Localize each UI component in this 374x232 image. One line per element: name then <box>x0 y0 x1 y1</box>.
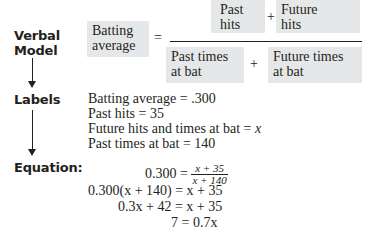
term-text: Past <box>216 2 260 17</box>
label-name: Future hits and times at bat <box>88 121 240 136</box>
term-text: hits <box>281 17 355 32</box>
down-arrow-icon <box>28 149 36 156</box>
step-label-labels: Labels <box>14 92 60 107</box>
equation-line-2: 0.300(x + 140) = x + 35 <box>88 183 223 199</box>
label-line: Past hits = 35 <box>88 106 164 122</box>
term-text: hits <box>216 17 260 32</box>
label-line: Batting average = .300 <box>88 91 216 107</box>
label-name: Past hits <box>88 106 135 121</box>
down-arrow-icon <box>28 81 36 88</box>
label-name: Past times at bat <box>88 136 179 151</box>
step-label-verbal-line2: Model <box>14 43 60 58</box>
fraction-bar <box>170 41 362 42</box>
term-future-hits: Future hits <box>276 0 360 33</box>
step-label-equation: Equation: <box>14 160 82 175</box>
term-text: Future <box>281 2 355 17</box>
label-value: .300 <box>191 91 216 106</box>
plus-sign: + <box>240 56 268 72</box>
equals-sign: = <box>154 30 162 46</box>
label-line: Past times at bat = 140 <box>88 136 215 152</box>
label-value: 140 <box>194 136 215 151</box>
term-text: at bat <box>171 64 239 79</box>
equation-line-4: 7 = 0.7x <box>171 215 217 231</box>
label-value: x <box>255 121 261 136</box>
term-future-times-at-bat: Future times at bat <box>268 47 362 83</box>
flow-arrow-line-2 <box>32 110 33 150</box>
label-name: Batting average <box>88 91 176 106</box>
equation-line-3: 0.3x + 42 = x + 35 <box>118 199 222 215</box>
label-line: Future hits and times at bat = x <box>88 121 261 137</box>
term-text: average <box>92 38 144 53</box>
label-value: 35 <box>150 106 164 121</box>
flow-arrow-line-1 <box>32 58 33 81</box>
term-batting-average: Batting average <box>87 21 149 57</box>
step-label-verbal-line1: Verbal <box>14 28 60 43</box>
equation-lhs: 0.300 = <box>145 166 188 181</box>
term-text: Past times <box>171 49 239 64</box>
step-label-verbal-model: Verbal Model <box>14 28 60 58</box>
term-past-times-at-bat: Past times at bat <box>166 47 244 83</box>
term-text: at bat <box>273 64 357 79</box>
term-text: Batting <box>92 23 144 38</box>
term-text: Future times <box>273 49 357 64</box>
